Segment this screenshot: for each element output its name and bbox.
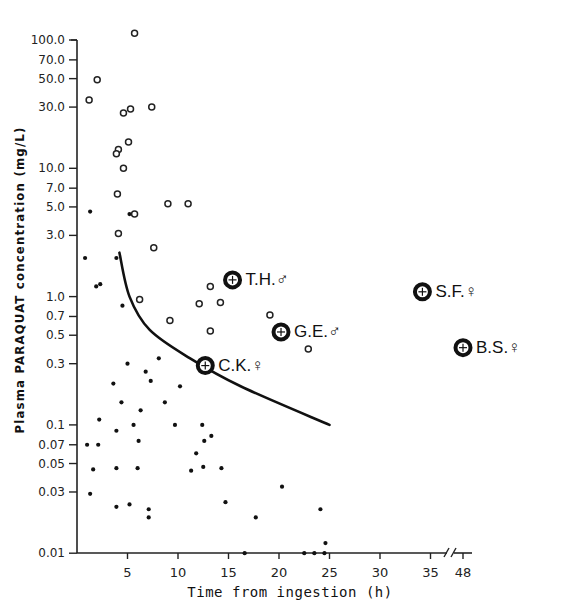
survivor-dot	[131, 423, 135, 427]
fatal-open-circle	[132, 30, 138, 36]
survivor-dot	[88, 209, 92, 213]
patient-label: C.K.♀	[218, 356, 264, 375]
y-tick-label: 7.0	[46, 181, 65, 195]
fatal-open-circle	[207, 328, 213, 334]
y-tick-label: 3.0	[46, 228, 65, 242]
y-tick-label: 70.0	[38, 53, 65, 67]
survivor-dot	[202, 439, 206, 443]
survivor-dot	[178, 384, 182, 388]
y-tick-label: 100.0	[31, 33, 65, 47]
patient-marker-sf: S.F.♀	[415, 282, 478, 301]
survivor-dot	[243, 551, 247, 555]
survivor-dot	[98, 282, 102, 286]
survivor-dot	[91, 467, 95, 471]
survivor-dot	[97, 417, 101, 421]
survivor-dot	[119, 400, 123, 404]
y-tick-label: 50.0	[38, 72, 65, 86]
patient-label: S.F.♀	[435, 282, 477, 301]
patient-label: B.S.♀	[476, 338, 521, 357]
y-tick-label: 0.5	[46, 328, 65, 342]
survivor-dot	[83, 256, 87, 260]
survivor-dot	[127, 502, 131, 506]
survivor-dot	[209, 434, 213, 438]
survivor-dot	[114, 256, 118, 260]
survivor-dot	[157, 356, 161, 360]
fatal-open-circle	[114, 191, 120, 197]
fatal-open-circle	[137, 296, 143, 302]
x-tick-label: 48	[455, 565, 472, 580]
fatal-open-circle	[207, 283, 213, 289]
survivor-dot	[280, 485, 284, 489]
fatal-open-circle	[128, 106, 134, 112]
y-tick-label: 0.1	[46, 418, 65, 432]
survivor-dot	[147, 507, 151, 511]
survivor-dot	[144, 370, 148, 374]
fatal-open-circle	[217, 299, 223, 305]
fatal-points	[86, 30, 311, 352]
survivor-dot	[322, 551, 326, 555]
labeled-patient-points: T.H.♂G.E.♂C.K.♀S.F.♀B.S.♀	[198, 270, 521, 375]
survivor-dot	[114, 505, 118, 509]
survivor-dot	[137, 439, 141, 443]
fatal-open-circle	[120, 165, 126, 171]
survivor-dot	[201, 465, 205, 469]
survivor-points	[83, 209, 328, 555]
x-tick-label: 25	[321, 565, 338, 580]
y-tick-label: 10.0	[38, 161, 65, 175]
survivor-dot	[223, 500, 227, 504]
survivor-dot	[254, 515, 258, 519]
fatal-open-circle	[120, 110, 126, 116]
survivor-dot	[302, 551, 306, 555]
survivor-dot	[323, 541, 327, 545]
y-tick-label: 0.01	[38, 546, 65, 560]
survivor-dot	[94, 284, 98, 288]
y-tick-label: 0.3	[46, 357, 65, 371]
fatal-open-circle	[126, 139, 132, 145]
patient-marker-bs: B.S.♀	[456, 338, 521, 357]
survivor-dot	[200, 423, 204, 427]
fatal-open-circle	[94, 77, 100, 83]
fatal-open-circle	[165, 201, 171, 207]
fatal-open-circle	[267, 312, 273, 318]
y-tick-label: 0.03	[38, 485, 65, 499]
y-axis-title-text: Plasma PARAQUAT concentration (mg/L)	[12, 126, 27, 433]
survivor-dot	[149, 379, 153, 383]
survivor-dot	[125, 362, 129, 366]
y-tick-label: 5.0	[46, 200, 65, 214]
fatal-open-circle	[151, 245, 157, 251]
fatal-open-circle	[149, 104, 155, 110]
fatal-open-circle	[305, 346, 311, 352]
fatal-open-circle	[132, 211, 138, 217]
fatal-open-circle	[196, 301, 202, 307]
survivor-dot	[85, 443, 89, 447]
survivor-dot	[120, 304, 124, 308]
fatal-open-circle	[113, 151, 119, 157]
fatal-open-circle	[185, 201, 191, 207]
x-tick-label: 35	[422, 565, 439, 580]
patient-label: G.E.♂	[294, 322, 341, 341]
survivor-dot	[194, 451, 198, 455]
survivor-dot	[111, 381, 115, 385]
x-axis-title: Time from ingestion (h)	[160, 584, 420, 600]
survivor-dot	[173, 423, 177, 427]
patient-label: T.H.♂	[246, 270, 289, 289]
survivor-dot	[114, 429, 118, 433]
x-tick-label: 20	[271, 565, 288, 580]
y-tick-label: 30.0	[38, 100, 65, 114]
survivor-dot	[88, 492, 92, 496]
patient-marker-ck: C.K.♀	[198, 356, 264, 375]
patient-marker-th: T.H.♂	[225, 270, 288, 289]
patient-marker-ge: G.E.♂	[274, 322, 341, 341]
x-tick-label: 5	[123, 565, 131, 580]
y-tick-label: 0.07	[38, 438, 65, 452]
survivor-dot	[163, 400, 167, 404]
survivor-dot	[189, 469, 193, 473]
chart-canvas: 100.070.050.030.010.07.05.03.01.00.70.50…	[0, 0, 561, 610]
x-tick-label: 15	[220, 565, 237, 580]
fatal-open-circle	[86, 97, 92, 103]
survivor-dot	[312, 551, 316, 555]
axes: 100.070.050.030.010.07.05.03.01.00.70.50…	[31, 33, 472, 580]
x-tick-label: 30	[372, 565, 389, 580]
y-tick-label: 0.05	[38, 457, 65, 471]
y-tick-label: 0.7	[46, 309, 65, 323]
